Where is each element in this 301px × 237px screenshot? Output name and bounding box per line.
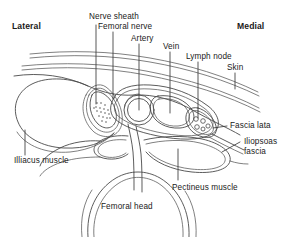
label-artery: Artery xyxy=(131,34,153,44)
label-vein: Vein xyxy=(163,42,179,52)
femoral-cross-section-figure: Lateral Medial Nerve sheath Femoral nerv… xyxy=(0,0,301,237)
label-iliopsoas-fascia-line1: Iliopsoas xyxy=(244,137,277,147)
lymph-node-follicles xyxy=(194,117,210,131)
label-femoral-nerve: Femoral nerve xyxy=(98,22,152,32)
orientation-label-lateral: Lateral xyxy=(12,22,41,32)
label-nerve-sheath: Nerve sheath xyxy=(89,12,139,22)
nerve-fascicle-stipple xyxy=(93,102,111,123)
label-skin: Skin xyxy=(227,63,243,73)
orientation-label-medial: Medial xyxy=(237,22,264,32)
lymph-node-group xyxy=(186,108,217,138)
superficial-fascia-layer-group xyxy=(22,64,260,112)
central-septum-group xyxy=(128,124,142,192)
label-pectineus-muscle: Pectineus muscle xyxy=(172,183,238,193)
label-femoral-head: Femoral head xyxy=(101,202,153,212)
label-fascia-lata: Fascia lata xyxy=(230,121,271,131)
femoral-nerve-sheath-group xyxy=(83,85,122,137)
label-illiacus-muscle: Illiacus muscle xyxy=(14,156,69,166)
label-iliopsoas-fascia-line2: fascia xyxy=(244,147,266,157)
label-lymph-node: Lymph node xyxy=(186,52,232,62)
pectineus-muscle-group xyxy=(144,136,248,172)
